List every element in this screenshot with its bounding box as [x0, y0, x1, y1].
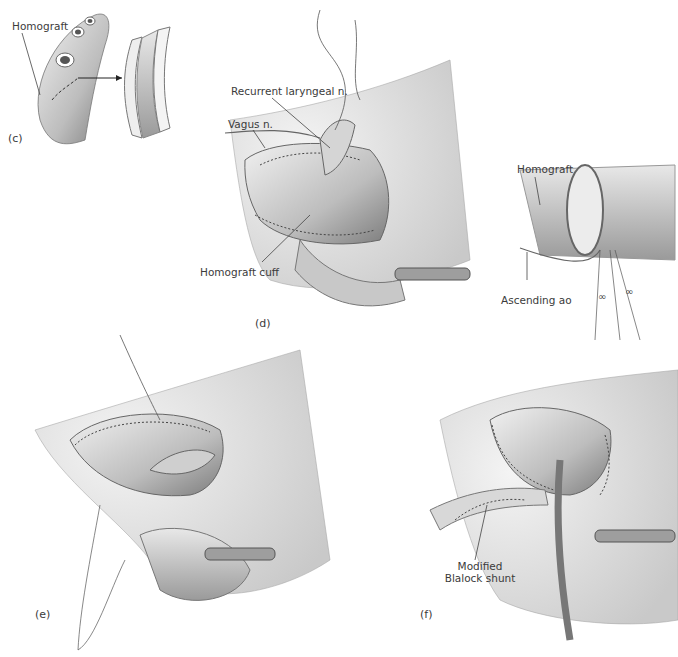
label-ascending-aorta: Ascending ao [501, 294, 572, 306]
label-recurrent-laryngeal-nerve: Recurrent laryngeal n. [231, 85, 348, 97]
panel-letter-f: (f) [420, 608, 432, 621]
panel-d-inset-art: ∞ ∞ [520, 165, 675, 340]
panel-letter-c: (c) [8, 132, 23, 145]
label-homograft-cuff: Homograft cuff [200, 266, 279, 278]
panel-e-art [35, 335, 330, 650]
panel-f-art [430, 370, 678, 640]
panel-d-art [225, 10, 470, 306]
panel-letter-d: (d) [255, 317, 271, 330]
svg-text:∞: ∞ [625, 286, 633, 297]
label-homograft-c: Homograft [12, 20, 68, 32]
label-vagus-nerve: Vagus n. [228, 118, 273, 130]
panel-letter-e: (e) [35, 608, 50, 621]
label-homograft-inset: Homograft [517, 163, 573, 175]
label-modified: Modified [440, 560, 520, 572]
label-blalock-shunt: Blalock shunt [440, 572, 520, 584]
panel-c-art [38, 14, 170, 144]
surgical-illustration: ∞ ∞ [0, 0, 678, 657]
svg-text:∞: ∞ [598, 291, 606, 302]
